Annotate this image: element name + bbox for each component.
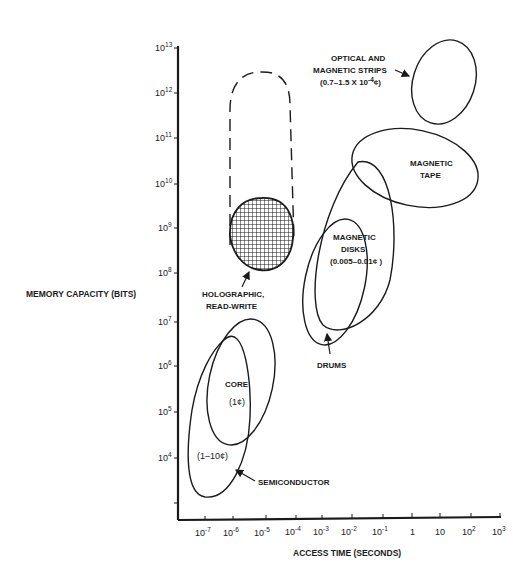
- svg-text:10-6: 10-6: [223, 526, 239, 538]
- arrow-optical: [395, 70, 409, 76]
- y-tick: 107: [158, 315, 178, 327]
- y-tick: 108: [158, 266, 178, 278]
- y-tick: 106: [158, 359, 178, 371]
- svg-text:107: 107: [158, 315, 172, 327]
- arrow-holographic: [242, 272, 249, 287]
- svg-text:106: 106: [158, 359, 172, 371]
- label-drums: DRUMS: [317, 361, 347, 370]
- y-ticks: 1013 1012 1011 1010 109 108 107 106 105 …: [155, 41, 178, 503]
- y-axis-label: MEMORY CAPACITY (BITS): [26, 289, 136, 299]
- svg-text:105: 105: [158, 405, 172, 417]
- y-tick: 1012: [155, 86, 178, 98]
- svg-text:1012: 1012: [155, 86, 173, 98]
- region-holographic-read-write: [230, 198, 293, 270]
- axes: [178, 46, 501, 520]
- label-core-cost: (1¢): [229, 397, 245, 407]
- svg-text:10-7: 10-7: [195, 526, 211, 538]
- region-optical-magnetic-strips: [401, 32, 487, 133]
- label-semiconductor: SEMICONDUCTOR: [258, 478, 330, 487]
- svg-text:10: 10: [435, 527, 445, 537]
- y-tick: 1010: [155, 177, 178, 189]
- svg-text:104: 104: [158, 451, 172, 463]
- region-magnetic-tape: [344, 118, 485, 219]
- arrow-semiconductor: [236, 470, 255, 481]
- y-tick: 1011: [155, 131, 178, 143]
- svg-text:10-4: 10-4: [285, 525, 301, 537]
- x-axis-line: [178, 517, 501, 520]
- memory-technology-chart: 1013 1012 1011 1010 109 108 107 106 105 …: [0, 0, 531, 581]
- y-tick: 104: [158, 451, 178, 463]
- y-tick: 109: [158, 221, 178, 233]
- svg-text:103: 103: [492, 525, 506, 537]
- svg-text:108: 108: [158, 266, 172, 278]
- svg-text:1011: 1011: [155, 131, 172, 143]
- svg-text:1010: 1010: [155, 177, 173, 189]
- y-tick: 105: [158, 405, 178, 417]
- label-magnetic-tape: MAGNETIC TAPE: [410, 159, 455, 180]
- label-core: CORE: [225, 380, 249, 389]
- label-semiconductor-cost: (1–10¢): [197, 451, 228, 461]
- svg-text:10-3: 10-3: [313, 525, 329, 537]
- y-tick: 1013: [155, 41, 178, 53]
- x-axis-label: ACCESS TIME (SECONDS): [293, 548, 401, 558]
- svg-text:10-2: 10-2: [341, 525, 357, 537]
- svg-text:1013: 1013: [155, 41, 173, 53]
- label-magnetic-disks: MAGNETIC DISKS (0.005–0.01¢ ): [330, 233, 382, 266]
- label-optical: OPTICAL AND MAGNETIC STRIPS (0.7–1.5 X 1…: [313, 54, 389, 87]
- x-tick: 1: [410, 513, 415, 537]
- svg-text:1: 1: [410, 527, 415, 537]
- svg-text:102: 102: [462, 525, 476, 537]
- label-holographic: HOLOGRAPHIC, READ-WRITE: [202, 290, 266, 311]
- svg-text:10-1: 10-1: [372, 525, 388, 537]
- svg-text:109: 109: [158, 221, 172, 233]
- svg-text:10-5: 10-5: [254, 526, 270, 538]
